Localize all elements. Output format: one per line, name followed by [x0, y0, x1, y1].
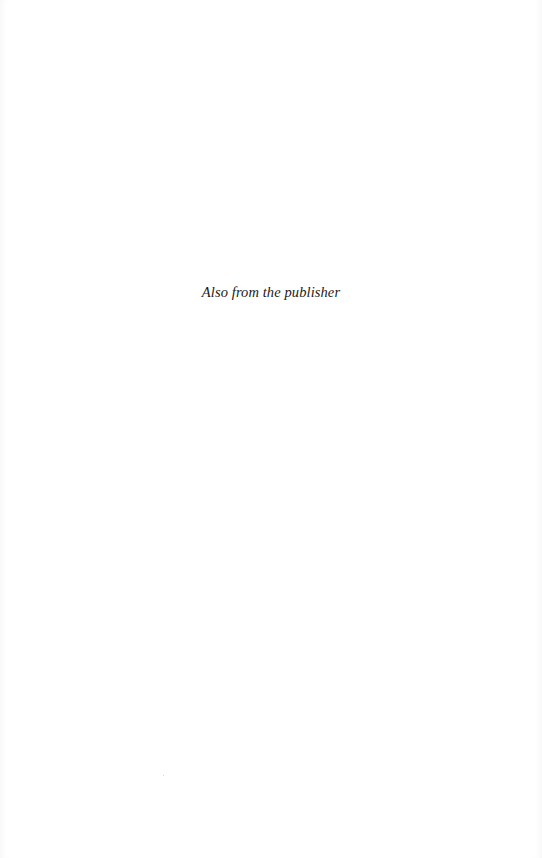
document-page: Also from the publisher	[0, 0, 542, 858]
page-heading: Also from the publisher	[0, 284, 542, 301]
paper-speck	[163, 775, 164, 776]
